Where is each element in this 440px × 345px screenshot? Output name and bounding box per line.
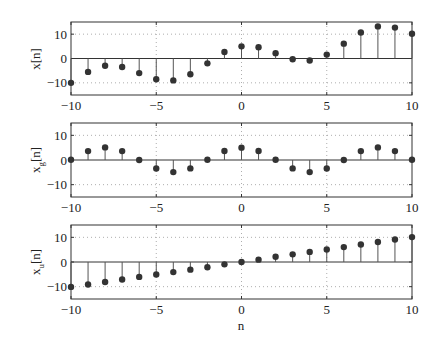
- stem-marker: [136, 70, 142, 76]
- stem-marker: [307, 57, 313, 63]
- stem-marker: [392, 236, 398, 242]
- y-tick-label: −10: [47, 177, 67, 192]
- x-tick-label: 0: [238, 200, 245, 215]
- ylabel-xu-rest: [n]: [28, 249, 43, 264]
- ylabel-xg: xg[n]: [28, 147, 46, 173]
- stem-marker: [324, 165, 330, 171]
- y-tick-label: 10: [54, 128, 67, 143]
- stem-marker: [358, 29, 364, 35]
- stem-marker: [341, 40, 347, 46]
- x-tick-label: −10: [61, 200, 81, 215]
- stem-marker: [170, 77, 176, 83]
- stem-marker: [255, 44, 261, 50]
- stem-marker: [204, 157, 210, 163]
- stem-marker: [204, 60, 210, 66]
- stem-marker: [221, 49, 227, 55]
- stem-marker: [68, 80, 74, 86]
- stem-marker: [358, 241, 364, 247]
- y-tick-label: −10: [47, 75, 67, 90]
- stem-marker: [409, 30, 415, 36]
- stem-marker: [255, 148, 261, 154]
- y-tick-label: 0: [61, 255, 68, 270]
- panel-xg: −10010−10−50510: [47, 123, 419, 215]
- stem-marker: [119, 148, 125, 154]
- stem-marker: [102, 279, 108, 285]
- figure: −10010−10−50510 −10010−10−50510 −10010−1…: [0, 0, 440, 345]
- stem-marker: [238, 43, 244, 49]
- ylabel-x: x[n]: [28, 48, 43, 70]
- y-tick-label: −10: [47, 279, 67, 294]
- x-tick-label: −5: [149, 302, 163, 317]
- xlabel-n: n: [238, 318, 245, 333]
- y-tick-label: 10: [54, 230, 67, 245]
- stem-marker: [289, 165, 295, 171]
- stem-marker: [307, 169, 313, 175]
- stem-marker: [238, 144, 244, 150]
- stem-marker: [153, 76, 159, 82]
- x-tick-label: 5: [324, 302, 331, 317]
- stem-marker: [187, 266, 193, 272]
- stem-marker: [153, 271, 159, 277]
- x-tick-label: 5: [324, 98, 331, 113]
- stem-marker: [324, 246, 330, 252]
- x-tick-label: −10: [61, 98, 81, 113]
- stem-marker: [102, 63, 108, 69]
- stem-marker: [375, 144, 381, 150]
- ylabel-xg-rest: [n]: [28, 147, 43, 162]
- x-tick-label: 5: [324, 200, 331, 215]
- stem-marker: [272, 50, 278, 56]
- panel-xu: −10010−10−50510: [47, 225, 419, 317]
- ylabel-xu: xu[n]: [28, 249, 46, 275]
- stem-marker: [187, 71, 193, 77]
- stem-marker: [153, 165, 159, 171]
- stem-marker: [307, 249, 313, 255]
- stem-marker: [204, 264, 210, 270]
- stem-marker: [170, 269, 176, 275]
- stem-marker: [68, 284, 74, 290]
- stem-marker: [375, 23, 381, 29]
- stem-marker: [85, 281, 91, 287]
- stem-marker: [409, 157, 415, 163]
- stem-marker: [375, 239, 381, 245]
- x-tick-label: 0: [238, 98, 245, 113]
- stem-marker: [221, 148, 227, 154]
- y-tick-label: 0: [61, 153, 68, 168]
- stem-marker: [324, 51, 330, 57]
- stem-marker: [255, 256, 261, 262]
- x-tick-label: 0: [238, 302, 245, 317]
- stem-marker: [272, 157, 278, 163]
- stem-marker: [170, 169, 176, 175]
- x-tick-label: 10: [406, 302, 419, 317]
- stem-marker: [68, 157, 74, 163]
- stem-marker: [136, 157, 142, 163]
- x-tick-label: −10: [61, 302, 81, 317]
- stem-marker: [392, 148, 398, 154]
- y-tick-label: 0: [61, 51, 68, 66]
- y-tick-label: 10: [54, 27, 67, 42]
- stem-marker: [392, 24, 398, 30]
- x-tick-label: −5: [149, 98, 163, 113]
- stem-marker: [85, 148, 91, 154]
- stem-marker: [119, 276, 125, 282]
- x-tick-label: 10: [406, 98, 419, 113]
- stem-marker: [341, 157, 347, 163]
- stem-marker: [119, 64, 125, 70]
- panel-x: −10010−10−50510: [47, 22, 419, 113]
- x-tick-label: −5: [149, 200, 163, 215]
- stem-marker: [136, 274, 142, 280]
- stem-marker: [289, 251, 295, 257]
- x-tick-label: 10: [406, 200, 419, 215]
- stem-marker: [289, 56, 295, 62]
- stem-marker: [358, 148, 364, 154]
- stem-marker: [238, 259, 244, 265]
- stem-marker: [341, 244, 347, 250]
- stem-marker: [221, 261, 227, 267]
- stem-marker: [187, 165, 193, 171]
- stem-marker: [85, 69, 91, 75]
- stem-marker: [272, 254, 278, 260]
- stem-marker: [409, 234, 415, 240]
- stem-marker: [102, 144, 108, 150]
